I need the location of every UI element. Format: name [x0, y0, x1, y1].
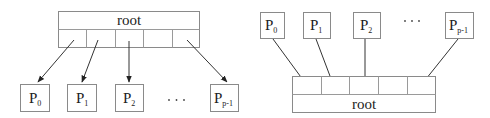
right-process-p2: P2 — [354, 13, 381, 39]
right-process-pp1: Pp-1 — [446, 13, 474, 39]
left-root-label: root — [117, 12, 142, 28]
right-ellipsis — [404, 20, 420, 22]
left-process-p0: P0 — [21, 85, 50, 112]
arrow-root-to-pp1 — [187, 40, 227, 82]
scatter-gather-diagram: root P0 P1 P2 Pp-1 — [0, 0, 490, 118]
right-root-node: root — [293, 77, 436, 113]
left-ellipsis — [168, 99, 185, 101]
left-process-p1: P1 — [68, 85, 97, 112]
left-process-pp1: Pp-1 — [211, 85, 239, 112]
left-process-p2: P2 — [116, 85, 144, 112]
left-diagram: root P0 P1 P2 Pp-1 — [21, 12, 239, 112]
arrow-root-to-p0 — [38, 40, 74, 82]
right-process-p1: P1 — [304, 13, 331, 39]
right-process-p0: P0 — [261, 13, 285, 39]
right-diagram: P0 P1 P2 Pp-1 — [261, 13, 474, 113]
right-root-label: root — [352, 96, 377, 112]
